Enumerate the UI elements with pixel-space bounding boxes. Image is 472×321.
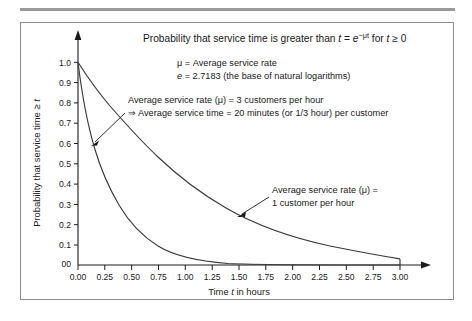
y-axis-title: Probability that service time ≥ t: [31, 99, 42, 227]
annotation-mu1-line2: 1 customer per hour: [272, 198, 354, 208]
y-axis-tick-labels: 1.0 0.9 0.8 0.7 0.6 0.5 0.4 0.3 0.2 0.1 …: [59, 58, 71, 269]
y-tick-label: 0.4: [59, 179, 71, 189]
x-tick-label: 0.75: [150, 272, 167, 282]
x-tick-label: 0.00: [70, 272, 87, 282]
x-tick-label: 1.75: [257, 272, 274, 282]
figure-root: Probability that service time is greater…: [0, 0, 472, 321]
y-axis-ticks: [74, 62, 78, 245]
y-tick-label: 0.8: [59, 98, 71, 108]
x-tick-label: 2.25: [311, 272, 328, 282]
annotation-mu3-line2: ⇒ Average service time = 20 minutes (or …: [128, 108, 388, 118]
chart-title: Probability that service time is greater…: [143, 31, 407, 44]
x-axis-title: Time t in hours: [208, 286, 270, 297]
y-tick-label: 0.1: [59, 240, 71, 250]
y-tick-label: 0.7: [59, 118, 71, 128]
x-axis-arrowhead: [421, 262, 431, 269]
x-tick-label: 3.00: [392, 272, 409, 282]
legend-definition-mu: μ = Average service rate: [177, 58, 277, 68]
y-tick-label: 0.3: [59, 200, 71, 210]
y-tick-label: 0.5: [59, 159, 71, 169]
x-tick-label: 1.50: [231, 272, 248, 282]
y-tick-label: 0.2: [59, 220, 71, 230]
x-tick-label: 2.00: [284, 272, 301, 282]
x-tick-label: 0.50: [123, 272, 140, 282]
annotation-mu1-leader: [237, 197, 269, 217]
y-axis-arrowhead: [75, 30, 82, 40]
annotation-mu1-line1: Average service rate (μ) =: [272, 185, 378, 195]
y-tick-label: 0.9: [59, 78, 71, 88]
x-tick-label: 2.75: [365, 272, 382, 282]
annotation-mu3-line1: Average service rate (μ) = 3 customers p…: [128, 95, 323, 105]
x-tick-label: 1.25: [204, 272, 221, 282]
legend-definition-e: e = 2.7183 (the base of natural logarith…: [177, 71, 350, 81]
chart-svg: Probability that service time is greater…: [0, 0, 472, 321]
y-tick-label: 1.0: [59, 58, 71, 68]
curve-mu3: [78, 62, 400, 265]
y-origin-label: 00: [61, 259, 71, 269]
x-axis-ticks: [78, 265, 400, 270]
curve-mu1: [78, 62, 400, 259]
x-axis-tick-labels: 0.00 0.25 0.50 0.75 1.00 1.25 1.50 1.75 …: [70, 272, 409, 282]
x-tick-label: 1.00: [177, 272, 194, 282]
x-tick-label: 0.25: [96, 272, 113, 282]
y-tick-label: 0.6: [59, 139, 71, 149]
x-tick-label: 2.50: [338, 272, 355, 282]
